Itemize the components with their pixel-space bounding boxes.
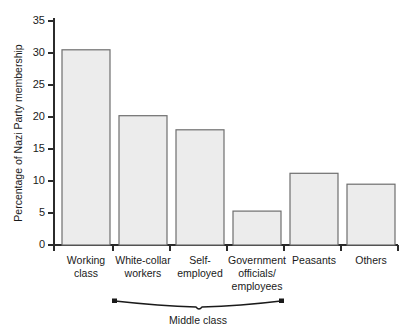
category-label-line: Government (228, 254, 286, 266)
category-label-line: employees (232, 280, 283, 292)
y-tick-label-0: 0 (39, 238, 45, 250)
middle-class-bracket: Middle class (112, 299, 284, 327)
category-label-line: Peasants (292, 254, 336, 266)
category-label-line: Others (355, 254, 387, 266)
y-tick-label-20: 20 (33, 110, 45, 122)
middle-class-bracket-label: Middle class (169, 314, 227, 326)
x-axis-ticks (54, 245, 398, 251)
y-tick-label-25: 25 (33, 78, 45, 90)
bar-working-class (62, 50, 110, 245)
category-label-line: Working (67, 254, 105, 266)
category-label-working-class: Working class (67, 254, 105, 279)
category-label-government-officials: Government officials/ employees (228, 254, 286, 292)
y-tick-label-30: 30 (33, 46, 45, 58)
category-label-line: officials/ (238, 267, 276, 279)
y-tick-label-35: 35 (33, 14, 45, 26)
category-label-white-collar-workers: White-collar workers (115, 254, 171, 279)
category-label-line: White-collar (115, 254, 171, 266)
bar-white-collar-workers (119, 116, 167, 245)
bar-chart: Percentage of Nazi Party membership 0 5 … (0, 0, 414, 333)
category-label-line: employed (177, 267, 223, 279)
category-label-line: Self- (189, 254, 211, 266)
bar-government-officials (233, 211, 281, 245)
category-label-peasants: Peasants (292, 254, 336, 266)
y-axis-label: Percentage of Nazi Party membership (12, 44, 24, 222)
category-label-line: class (74, 267, 98, 279)
y-tick-label-15: 15 (33, 142, 45, 154)
y-tick-label-5: 5 (39, 206, 45, 218)
chart-canvas: Percentage of Nazi Party membership 0 5 … (0, 0, 414, 333)
category-label-self-employed: Self- employed (177, 254, 223, 279)
bar-peasants (290, 173, 338, 245)
category-label-others: Others (355, 254, 387, 266)
y-axis-ticks (48, 21, 54, 245)
bar-self-employed (176, 130, 224, 245)
category-label-line: workers (124, 267, 162, 279)
bar-others (347, 184, 395, 245)
y-tick-label-10: 10 (33, 174, 45, 186)
